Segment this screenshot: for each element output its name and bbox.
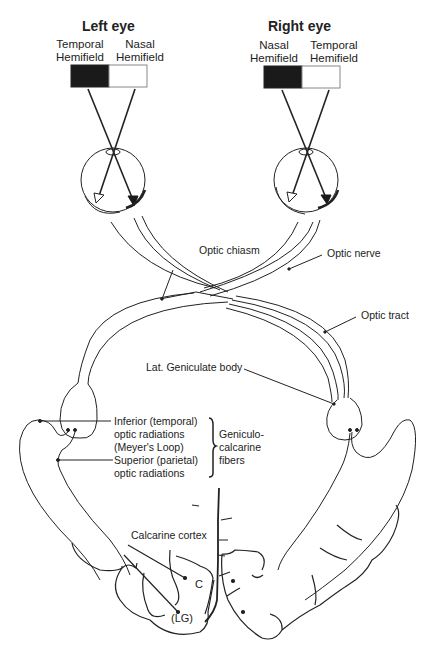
geniculo-calcarine-fibers-label: Geniculo- calcarine fibers (219, 428, 264, 467)
superior-line2: optic radiations (114, 467, 198, 480)
left-eye-temporal-label: Temporal Hemifield (52, 38, 108, 64)
left-eye-nasal-label: Nasal Hemifield (112, 38, 168, 64)
right-eye-hemifield-boxes (264, 66, 340, 88)
geniculo-line2: calcarine (219, 441, 264, 454)
occipital-cortex (72, 488, 399, 639)
left-eye-hemifield-boxes (71, 65, 147, 87)
left-eyeball (81, 148, 145, 213)
left-eye-temporal-line2: Hemifield (52, 51, 108, 64)
superior-optic-radiations-label: Superior (parietal) optic radiations (114, 454, 198, 480)
optic-nerve-label: Optic nerve (327, 247, 381, 259)
c-label: C (195, 578, 203, 590)
geniculo-line3: fibers (219, 454, 264, 467)
right-optic-radiations (278, 420, 416, 600)
optic-tract-label: Optic tract (361, 309, 409, 321)
superior-line1: Superior (parietal) (114, 454, 198, 467)
optic-nerves-and-chiasm (111, 216, 320, 299)
inferior-line2: optic radiations (114, 428, 197, 441)
right-eye-title: Right eye (268, 18, 331, 34)
lateral-geniculate-bodies (60, 383, 362, 440)
inferior-line1: Inferior (temporal) (114, 415, 197, 428)
optic-tracts (78, 293, 349, 402)
right-eye-light-rays (282, 90, 331, 204)
optic-chiasm-label: Optic chiasm (199, 244, 260, 256)
lat-geniculate-body-label: Lat. Geniculate body (146, 361, 242, 373)
left-eye-nasal-line2: Hemifield (112, 51, 168, 64)
right-eye-temporal-line1: Temporal (306, 39, 362, 52)
geniculo-calcarine-bracket (209, 418, 216, 477)
inferior-line3: (Meyer's Loop) (114, 441, 197, 454)
inferior-optic-radiations-label: Inferior (temporal) optic radiations (Me… (114, 415, 197, 454)
right-eye-temporal-label: Temporal Hemifield (306, 39, 362, 65)
left-eye-nasal-line1: Nasal (112, 38, 168, 51)
left-eye-temporal-line1: Temporal (52, 38, 108, 51)
right-eye-temporal-line2: Hemifield (306, 52, 362, 65)
calcarine-cortex-label: Calcarine cortex (131, 529, 207, 541)
right-eye-nasal-line2: Hemifield (246, 52, 302, 65)
lg-label: (LG) (171, 612, 193, 624)
geniculo-line1: Geniculo- (219, 428, 264, 441)
leader-lines (161, 255, 356, 405)
left-eye-title: Left eye (82, 18, 135, 34)
visual-pathway-diagram (0, 0, 429, 653)
right-eye-nasal-line1: Nasal (246, 39, 302, 52)
right-eye-nasal-label: Nasal Hemifield (246, 39, 302, 65)
